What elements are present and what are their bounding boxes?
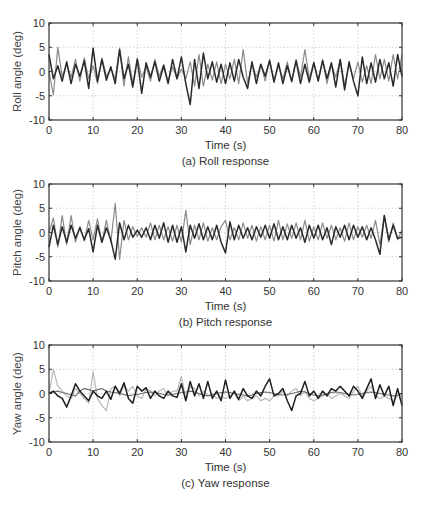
- panel-caption: (a) Roll response: [182, 155, 270, 167]
- y-tick-label: -10: [29, 114, 45, 126]
- roll-response-panel: 010203040506070801050-5-10Roll angle (de…: [11, 17, 408, 167]
- y-tick-label: 10: [33, 339, 45, 351]
- x-tick-label: 60: [308, 285, 320, 297]
- x-tick-label: 30: [175, 124, 187, 136]
- y-tick-label: -10: [29, 275, 45, 287]
- grid: [49, 23, 402, 120]
- x-tick-label: 50: [264, 285, 276, 297]
- y-tick-label: -10: [29, 436, 45, 448]
- panel-caption: (c) Yaw response: [181, 477, 269, 489]
- x-tick-label: 80: [396, 285, 408, 297]
- y-tick-label: 5: [39, 41, 45, 53]
- x-tick-label: 80: [396, 446, 408, 458]
- pitch-response-panel: 010203040506070801050-5-10Pitch angle (d…: [11, 178, 408, 328]
- y-tick-label: 5: [39, 202, 45, 214]
- y-tick-label: 10: [33, 17, 45, 29]
- series-line-series-3: [49, 369, 402, 410]
- x-tick-label: 70: [352, 124, 364, 136]
- y-tick-label: -5: [35, 251, 45, 263]
- panel-caption: (b) Pitch response: [179, 316, 272, 328]
- x-tick-label: 0: [46, 446, 52, 458]
- x-tick-label: 40: [219, 124, 231, 136]
- x-tick-label: 30: [175, 446, 187, 458]
- x-tick-label: 60: [308, 446, 320, 458]
- x-tick-label: 10: [87, 285, 99, 297]
- x-tick-label: 10: [87, 124, 99, 136]
- x-tick-label: 20: [131, 285, 143, 297]
- yaw-response-panel: 010203040506070801050-5-10Yaw angle (deg…: [11, 339, 408, 489]
- y-axis-label: Roll angle (deg): [11, 31, 23, 112]
- y-tick-label: 10: [33, 178, 45, 190]
- x-axis-label: Time (s): [205, 461, 247, 473]
- y-tick-label: 0: [39, 66, 45, 78]
- series-line-series-2: [49, 47, 402, 95]
- y-axis-label: Yaw angle (deg): [11, 352, 23, 435]
- x-tick-label: 20: [131, 124, 143, 136]
- x-tick-label: 0: [46, 124, 52, 136]
- x-tick-label: 80: [396, 124, 408, 136]
- y-tick-label: -5: [35, 90, 45, 102]
- x-axis-label: Time (s): [205, 139, 247, 151]
- y-axis-label: Pitch angle (deg): [11, 189, 23, 276]
- figure: 010203040506070801050-5-10Roll angle (de…: [0, 0, 423, 508]
- x-axis-label: Time (s): [205, 300, 247, 312]
- x-tick-label: 50: [264, 446, 276, 458]
- x-tick-label: 40: [219, 285, 231, 297]
- x-tick-label: 70: [352, 285, 364, 297]
- x-tick-label: 50: [264, 124, 276, 136]
- x-tick-label: 0: [46, 285, 52, 297]
- x-tick-label: 60: [308, 124, 320, 136]
- y-tick-label: 5: [39, 363, 45, 375]
- x-tick-label: 40: [219, 446, 231, 458]
- grid: [49, 184, 402, 281]
- x-tick-label: 30: [175, 285, 187, 297]
- x-tick-label: 70: [352, 446, 364, 458]
- x-tick-label: 10: [87, 446, 99, 458]
- y-tick-label: 0: [39, 388, 45, 400]
- y-tick-label: 0: [39, 227, 45, 239]
- x-tick-label: 20: [131, 446, 143, 458]
- y-tick-label: -5: [35, 412, 45, 424]
- grid: [49, 345, 402, 442]
